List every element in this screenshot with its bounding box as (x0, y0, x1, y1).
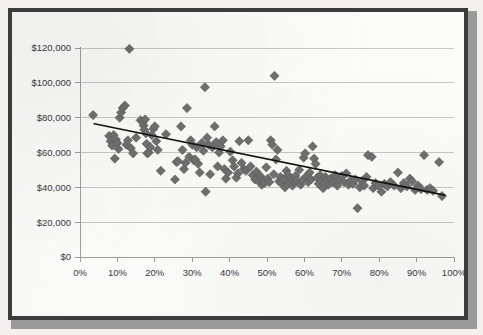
data-point-marker (156, 166, 165, 175)
data-point-marker (110, 154, 119, 163)
x-tick-label-8: 80% (370, 267, 390, 278)
x-tick-label-3: 30% (183, 267, 203, 278)
scatter-plot: $0$20,000$40,000$60,000$80,000$100,000$1… (12, 12, 464, 316)
x-tick-label-0: 0% (73, 267, 87, 278)
data-point-marker (195, 168, 204, 177)
data-point-marker (201, 187, 210, 196)
data-point-marker (393, 168, 402, 177)
data-point-marker (170, 175, 179, 184)
data-point-marker (270, 71, 279, 80)
data-point-marker (437, 191, 446, 200)
y-tick-label-4: $80,000 (37, 112, 71, 123)
data-point-marker (206, 170, 215, 179)
data-point-marker (235, 137, 244, 146)
x-tick-label-6: 60% (295, 267, 315, 278)
data-point-marker (353, 204, 362, 213)
x-tick-label-9: 90% (407, 267, 427, 278)
data-point-marker (434, 157, 443, 166)
data-point-marker (182, 103, 191, 112)
data-point-marker (88, 110, 97, 119)
y-tick-label-2: $40,000 (37, 182, 71, 193)
y-gridlines: $0$20,000$40,000$60,000$80,000$100,000$1… (31, 42, 454, 262)
x-tick-label-10: 100% (442, 267, 464, 278)
x-ticks: 0%10%20%30%40%50%60%70%80%90%100% (73, 257, 464, 278)
y-tick-label-1: $20,000 (37, 217, 71, 228)
data-point-marker (244, 136, 253, 145)
y-tick-label-5: $100,000 (31, 77, 71, 88)
data-point-marker (262, 163, 271, 172)
y-tick-label-3: $60,000 (37, 147, 71, 158)
x-tick-label-7: 70% (332, 267, 352, 278)
x-tick-label-5: 50% (257, 267, 277, 278)
data-point-marker (210, 122, 219, 131)
data-point-marker (419, 151, 428, 160)
chart-frame-border: $0$20,000$40,000$60,000$80,000$100,000$1… (8, 8, 468, 320)
x-tick-label-4: 40% (220, 267, 240, 278)
data-point-marker (178, 145, 187, 154)
chart-canvas: $0$20,000$40,000$60,000$80,000$100,000$1… (12, 12, 464, 316)
data-point-marker (200, 83, 209, 92)
x-tick-label-1: 10% (108, 267, 128, 278)
data-point-marker (176, 122, 185, 131)
scan-page-background: $0$20,000$40,000$60,000$80,000$100,000$1… (0, 0, 483, 335)
y-tick-label-6: $120,000 (31, 42, 71, 53)
data-point-marker (132, 133, 141, 142)
data-point-marker (308, 142, 317, 151)
y-tick-label-0: $0 (60, 251, 71, 262)
x-tick-label-2: 20% (145, 267, 165, 278)
data-point-marker (125, 44, 134, 53)
